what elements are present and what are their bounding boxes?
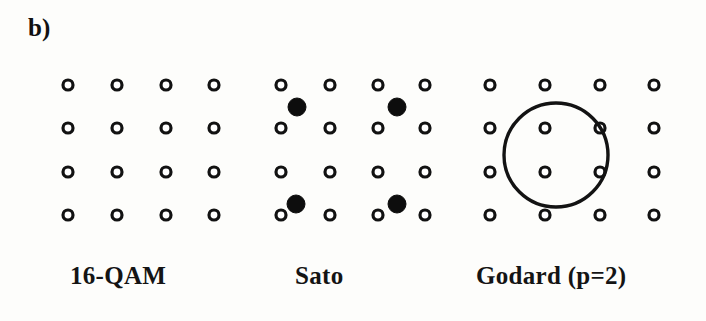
open-constellation-point xyxy=(595,80,605,90)
open-constellation-point xyxy=(420,123,430,133)
filled-constellation-point xyxy=(287,195,305,213)
open-constellation-point xyxy=(63,123,73,133)
open-constellation-point xyxy=(325,80,335,90)
open-constellation-point xyxy=(420,80,430,90)
open-constellation-point xyxy=(161,123,171,133)
open-constellation-point xyxy=(209,80,219,90)
open-constellation-point xyxy=(373,123,383,133)
filled-constellation-point xyxy=(388,195,406,213)
open-constellation-point xyxy=(161,210,171,220)
caption-sato: Sato xyxy=(295,262,343,290)
open-constellation-point xyxy=(161,80,171,90)
open-constellation-point xyxy=(63,80,73,90)
open-constellation-point xyxy=(112,167,122,177)
open-constellation-point xyxy=(63,210,73,220)
subplot-sato xyxy=(276,80,430,220)
open-constellation-point xyxy=(325,123,335,133)
open-constellation-point xyxy=(276,210,286,220)
open-constellation-point xyxy=(112,210,122,220)
open-constellation-point xyxy=(540,210,550,220)
open-constellation-point xyxy=(649,167,659,177)
open-constellation-point xyxy=(420,167,430,177)
open-constellation-point xyxy=(373,167,383,177)
open-constellation-point xyxy=(485,210,495,220)
open-constellation-point xyxy=(276,123,286,133)
open-constellation-point xyxy=(485,167,495,177)
open-constellation-point xyxy=(112,123,122,133)
open-constellation-point xyxy=(649,80,659,90)
open-constellation-point xyxy=(209,210,219,220)
open-constellation-point xyxy=(325,167,335,177)
open-constellation-point xyxy=(595,123,605,133)
constant-modulus-ring xyxy=(504,103,608,207)
subplot-godard xyxy=(485,80,659,220)
open-constellation-point xyxy=(209,167,219,177)
open-constellation-point xyxy=(161,167,171,177)
filled-constellation-point xyxy=(288,98,306,116)
open-constellation-point xyxy=(112,80,122,90)
open-constellation-point xyxy=(649,210,659,220)
open-constellation-point xyxy=(540,123,550,133)
open-constellation-point xyxy=(485,80,495,90)
figure-part-label: b) xyxy=(28,14,51,42)
open-constellation-point xyxy=(485,123,495,133)
subplot-16-qam xyxy=(63,80,219,220)
open-constellation-point xyxy=(540,167,550,177)
caption-godard: Godard (p=2) xyxy=(476,262,627,290)
filled-constellation-point xyxy=(388,98,406,116)
open-constellation-point xyxy=(540,80,550,90)
open-constellation-point xyxy=(595,210,605,220)
open-constellation-point xyxy=(325,210,335,220)
open-constellation-point xyxy=(373,80,383,90)
constellation-figure: b) 16-QAM Sato Godard (p=2) xyxy=(0,0,706,321)
open-constellation-point xyxy=(420,210,430,220)
open-constellation-point xyxy=(649,123,659,133)
open-constellation-point xyxy=(63,167,73,177)
open-constellation-point xyxy=(209,123,219,133)
open-constellation-point xyxy=(276,80,286,90)
caption-16-qam: 16-QAM xyxy=(70,262,166,290)
open-constellation-point xyxy=(373,210,383,220)
open-constellation-point xyxy=(595,167,605,177)
open-constellation-point xyxy=(276,167,286,177)
